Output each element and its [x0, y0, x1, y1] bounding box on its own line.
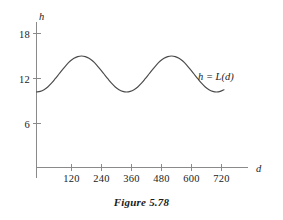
figure-caption: Figure 5.78: [0, 196, 283, 208]
x-tick-label-480: 480: [153, 173, 170, 184]
x-tick-label-120: 120: [63, 173, 80, 184]
chart-plot-area: 18 12 6 120 240 360 480 600 720 h d h = …: [0, 0, 283, 220]
x-tick-label-720: 720: [213, 173, 230, 184]
y-axis-label: h: [39, 11, 44, 22]
x-tick-label-240: 240: [93, 173, 110, 184]
y-tick-label-6: 6: [24, 119, 30, 130]
curve-h-equals-L-of-d: [37, 56, 225, 92]
figure-container: 18 12 6 120 240 360 480 600 720 h d h = …: [0, 0, 283, 220]
x-tick-label-360: 360: [123, 173, 140, 184]
curve-label-annotation: h = L(d): [198, 71, 234, 83]
y-tick-label-18: 18: [19, 29, 30, 40]
y-tick-label-12: 12: [19, 74, 30, 85]
x-tick-label-600: 600: [183, 173, 200, 184]
x-axis-label: d: [256, 163, 262, 174]
